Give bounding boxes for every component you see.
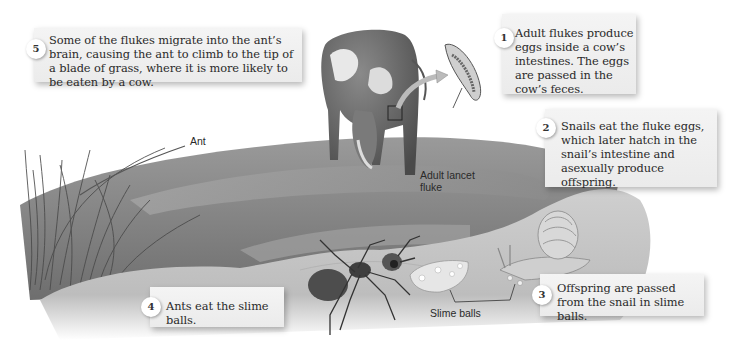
step-1-callout: 1 Adult flukes produce eggs inside a cow… [502,14,636,94]
step-3-text: Offspring are passed from the snail in s… [557,281,703,323]
step-4-number: 4 [141,297,161,317]
step-3-callout: 3 Offspring are passed from the snail in… [540,274,704,316]
step-1-number: 1 [494,28,514,48]
fluke-illustration [445,44,481,108]
step-5-text: Some of the flukes migrate into the ant’… [49,33,299,89]
slime-balls-label: Slime balls [430,307,481,319]
step-4-text: Ants eat the slime balls. [166,299,284,327]
step-2-text: Snails eat the fluke eggs, which later h… [561,119,715,189]
step-5-callout: 5 Some of the flukes migrate into the an… [34,28,302,82]
step-2-callout: 2 Snails eat the fluke eggs, which later… [545,109,717,187]
step-4-callout: 4 Ants eat the slime balls. [150,287,284,327]
step-1-text: Adult flukes produce eggs inside a cow’s… [515,26,635,96]
step-3-number: 3 [532,285,552,305]
step-5-number: 5 [26,39,46,59]
step-2-number: 2 [536,118,556,138]
fluke-label: Adult lancet fluke [420,169,480,193]
ant-label: Ant [190,135,206,147]
cow-illustration [321,30,425,175]
